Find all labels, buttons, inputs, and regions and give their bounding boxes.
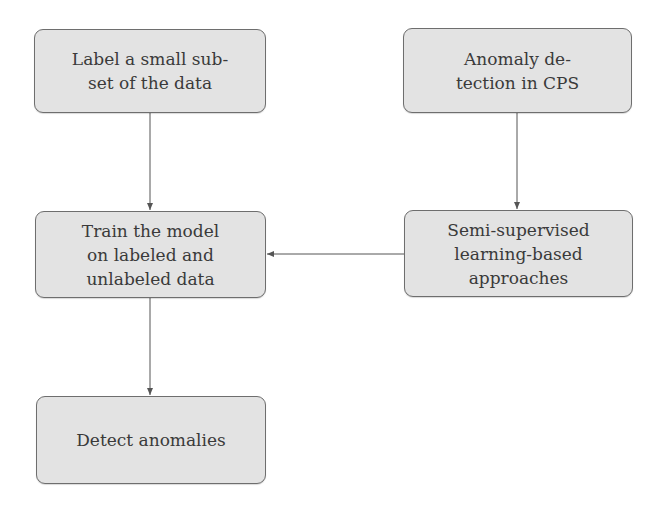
node-train-model: Train the model on labeled and unlabeled… — [35, 211, 266, 298]
node-train-model-text: Train the model on labeled and unlabeled… — [82, 219, 219, 291]
node-semi-supervised-text: Semi-supervised learning-based approache… — [447, 218, 589, 290]
node-anomaly-detection-cps-text: Anomaly de- tection in CPS — [456, 47, 579, 95]
node-detect-anomalies: Detect anomalies — [36, 396, 266, 484]
node-anomaly-detection-cps: Anomaly de- tection in CPS — [403, 28, 632, 113]
flowchart-canvas: Label a small sub- set of the data Anoma… — [0, 0, 658, 512]
node-semi-supervised: Semi-supervised learning-based approache… — [404, 210, 633, 297]
node-label-subset: Label a small sub- set of the data — [34, 29, 266, 113]
node-detect-anomalies-text: Detect anomalies — [76, 428, 226, 452]
node-label-subset-text: Label a small sub- set of the data — [72, 47, 228, 95]
